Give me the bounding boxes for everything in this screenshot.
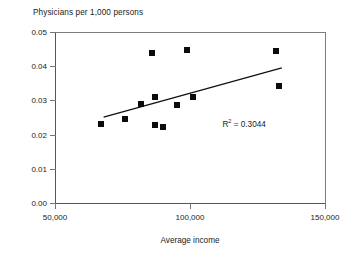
data-point xyxy=(273,48,279,54)
data-point xyxy=(149,50,155,56)
data-point xyxy=(138,101,144,107)
data-point xyxy=(276,83,282,89)
data-point xyxy=(190,94,196,100)
trend-line xyxy=(0,0,360,261)
r-value: = 0.3044 xyxy=(231,119,265,128)
data-point xyxy=(122,116,128,122)
scatter-chart: Physicians per 1,000 persons 0.05 0.04 0… xyxy=(0,0,360,261)
r-squared-annotation: R2 = 0.3044 xyxy=(222,118,265,129)
data-point xyxy=(152,122,158,128)
data-point xyxy=(152,94,158,100)
data-point xyxy=(184,47,190,53)
data-point xyxy=(160,124,166,130)
data-point xyxy=(98,121,104,127)
data-point xyxy=(174,102,180,108)
